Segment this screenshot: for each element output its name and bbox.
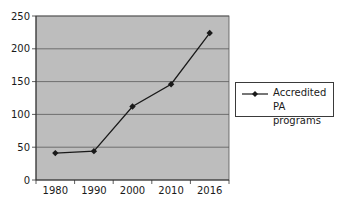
y-tick-label: 50 [17,142,30,153]
y-tick-label: 200 [11,43,30,54]
legend-line-marker-icon [242,91,268,97]
x-axis: 19801990200020102016 [36,180,229,196]
x-tick-label: 2000 [120,185,145,196]
y-tick-label: 100 [11,109,30,120]
y-tick-label: 150 [11,76,30,87]
y-tick-label: 250 [11,11,30,22]
x-tick-label: 1980 [43,185,68,196]
legend-label: Accredited PA programs [273,86,333,128]
x-tick-label: 2010 [158,185,183,196]
x-tick-label: 2016 [197,185,222,196]
legend: Accredited PA programs [235,82,334,117]
y-axis: 050100150200250 [11,11,36,186]
x-tick-label: 1990 [81,185,106,196]
y-tick-label: 0 [24,175,30,186]
plot-area [36,16,229,180]
